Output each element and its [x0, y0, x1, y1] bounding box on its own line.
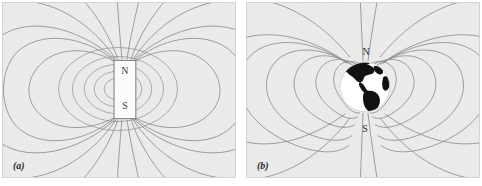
panel-earth-field: N S (b)	[246, 2, 480, 178]
earth-field-diagram: N S	[247, 3, 479, 177]
earth-south-pole-label: S	[362, 123, 368, 134]
magnet-north-pole-label: N	[121, 65, 128, 76]
magnet-south-pole-label: S	[122, 100, 128, 111]
bar-magnet: N S	[114, 60, 136, 118]
figure-magnetic-field-lines: N S (a)	[0, 0, 482, 186]
panel-b-caption: (b)	[257, 161, 269, 171]
panel-bar-magnet: N S (a)	[2, 2, 236, 178]
bar-magnet-field-diagram: N S	[3, 3, 235, 177]
earth-north-pole-label: N	[362, 46, 369, 57]
panel-a-caption: (a)	[13, 161, 25, 171]
